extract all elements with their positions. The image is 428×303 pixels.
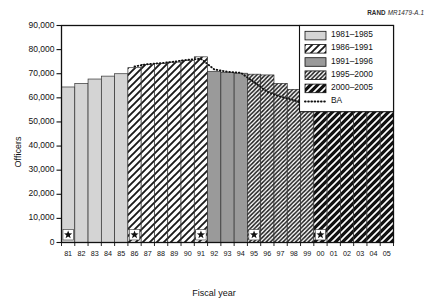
x-tick-label: 04 [367, 249, 380, 258]
bar [247, 74, 260, 242]
bar [261, 75, 274, 243]
bar [274, 83, 287, 242]
legend-item-label: BA [331, 95, 390, 105]
x-axis-title: Fiscal year [0, 288, 428, 298]
legend-item-label: 1981–1985 [331, 29, 390, 39]
bar [208, 71, 221, 242]
bar [181, 60, 194, 242]
y-tick-label: 0 [6, 237, 55, 247]
legend-swatch-white-dense-diagonal [305, 71, 326, 80]
x-tick-label: 97 [274, 249, 287, 258]
x-tick-label: 82 [75, 249, 88, 258]
x-tick-label: 02 [340, 249, 353, 258]
bar [234, 73, 247, 242]
bar [314, 109, 327, 242]
y-tick-label: 30,000 [6, 164, 55, 174]
x-tick-label: 95 [247, 249, 260, 258]
x-tick-label: 83 [88, 249, 101, 258]
bar [367, 109, 380, 242]
y-tick-label: 60,000 [6, 92, 55, 102]
bar [154, 64, 167, 243]
bar [62, 87, 75, 243]
x-tick-label: 90 [181, 249, 194, 258]
bar [354, 109, 367, 242]
x-tick-label: 87 [141, 249, 154, 258]
legend-swatch-black-white-diagonal [305, 84, 326, 93]
legend-item: 1981–1985 [331, 29, 390, 42]
x-tick-label: 81 [62, 249, 75, 258]
x-tick-label: 03 [354, 249, 367, 258]
rand-number: MR1479-A.1 [388, 9, 424, 16]
bar [380, 109, 393, 242]
x-tick-label: 89 [168, 249, 181, 258]
x-tick-label: 92 [208, 249, 221, 258]
y-tick-label: 50,000 [6, 116, 55, 126]
legend-item-label: 1995–2000 [331, 69, 390, 79]
bar [340, 109, 353, 242]
bar [101, 76, 114, 242]
x-tick-label: 00 [314, 249, 327, 258]
plot-area: 1981–19851986–19911991–19961995–20002000… [0, 0, 428, 303]
x-tick-label: 05 [380, 249, 393, 258]
legend-swatch-solid-medium-gray [305, 58, 326, 67]
bar [141, 65, 154, 243]
bar [168, 62, 181, 242]
y-tick-label: 90,000 [6, 20, 55, 30]
x-tick-label: 91 [194, 249, 207, 258]
rand-document-tag: RAND MR1479-A.1 [367, 9, 424, 16]
x-tick-label: 85 [115, 249, 128, 258]
y-tick-label: 80,000 [6, 44, 55, 54]
x-tick-label: 99 [301, 249, 314, 258]
legend-item: 1986–1991 [331, 42, 390, 55]
legend-item: 1991–1996 [331, 56, 390, 69]
x-tick-label: 88 [154, 249, 167, 258]
bar [327, 109, 340, 242]
rand-label: RAND [367, 9, 386, 16]
legend-swatch-solid-light-gray [305, 31, 326, 40]
bar [128, 68, 141, 243]
x-tick-label: 94 [234, 249, 247, 258]
chart-figure: RAND MR1479-A.1 Officers Fiscal year 010… [0, 0, 428, 303]
legend-item-label: 2000–2005 [331, 82, 390, 92]
bar [301, 93, 314, 242]
x-tick-label: 93 [221, 249, 234, 258]
x-tick-label: 86 [128, 249, 141, 258]
x-tick-label: 98 [287, 249, 300, 258]
x-tick-label: 01 [327, 249, 340, 258]
legend-item-label: 1986–1991 [331, 42, 390, 52]
bar [115, 74, 128, 243]
bar [221, 73, 234, 243]
y-tick-label: 70,000 [6, 68, 55, 78]
legend-item: 2000–2005 [331, 82, 390, 95]
bar [88, 79, 101, 242]
legend-swatch-white-wide-diagonal [305, 45, 326, 54]
y-tick-label: 10,000 [6, 212, 55, 222]
x-tick-label: 84 [101, 249, 114, 258]
y-tick-label: 20,000 [6, 188, 55, 198]
x-tick-label: 96 [261, 249, 274, 258]
bar [194, 57, 207, 243]
legend: 1981–19851986–19911991–19961995–20002000… [300, 26, 394, 112]
bar [75, 83, 88, 242]
legend-item: BA [331, 95, 390, 108]
bar [287, 89, 300, 242]
legend-item: 1995–2000 [331, 69, 390, 82]
y-tick-label: 40,000 [6, 140, 55, 150]
legend-item-label: 1991–1996 [331, 56, 390, 66]
